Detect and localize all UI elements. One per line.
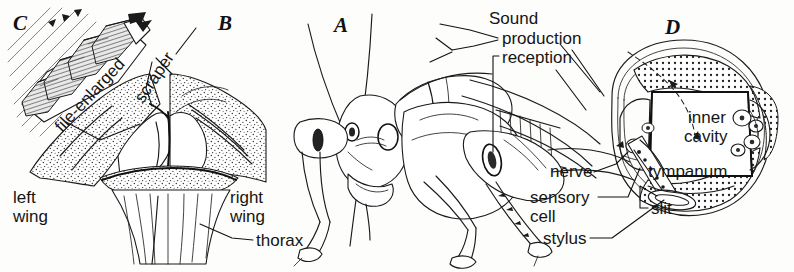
panel-letter-b: B	[217, 11, 232, 35]
label-sound: Sound	[489, 9, 538, 28]
label-inner-line2: cavity	[684, 127, 728, 146]
label-reception: reception	[502, 48, 572, 67]
label-nerve: nerve	[550, 162, 593, 181]
sensory-nucleus-3	[646, 126, 650, 130]
label-left-wing-line2: wing	[12, 207, 48, 226]
figure-canvas: C B file-enlarged scraper left wing righ…	[0, 0, 794, 272]
label-right-wing-line1: right	[230, 188, 263, 207]
ocellus-pupil	[349, 127, 355, 136]
label-stylus: stylus	[543, 229, 586, 248]
foreleg-marking	[313, 129, 323, 151]
label-production: production	[502, 29, 581, 48]
label-sensory-line2: cell	[530, 207, 556, 226]
label-right-wing-line2: wing	[229, 207, 265, 226]
label-tympanum: tympanum	[648, 162, 727, 181]
panel-letter-d: D	[664, 15, 680, 39]
panel-letter-a: A	[332, 13, 348, 37]
label-left-wing-line1: left	[13, 188, 36, 207]
label-sensory-line1: sensory	[530, 188, 590, 207]
compound-eye	[378, 124, 398, 150]
anatomical-figure: C B file-enlarged scraper left wing righ…	[0, 0, 794, 272]
label-inner-line1: inner	[688, 108, 726, 127]
label-thorax: thorax	[256, 231, 304, 250]
panel-letter-c: C	[13, 11, 28, 35]
